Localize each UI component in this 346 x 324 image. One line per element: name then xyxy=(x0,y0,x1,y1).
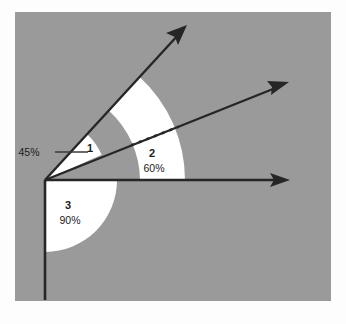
callout-45-label: 45% xyxy=(18,146,39,158)
sector-3-percent-label: 90% xyxy=(59,214,80,226)
diagram-screenshot: 45% 1 2 60% 3 90% xyxy=(0,0,346,324)
sector-1-number-label: 1 xyxy=(87,142,93,154)
sector-3-number-label: 3 xyxy=(65,199,71,211)
angle-sector-diagram: 45% 1 2 60% 3 90% xyxy=(0,0,346,324)
sector-2-percent-label: 60% xyxy=(143,162,164,174)
sector-2-number-label: 2 xyxy=(149,147,155,159)
